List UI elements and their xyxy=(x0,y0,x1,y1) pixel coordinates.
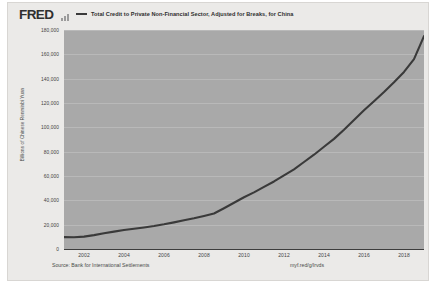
y-tick-label: 80,000 xyxy=(44,149,59,154)
x-tick-label: 2010 xyxy=(238,252,250,258)
x-tick-label: 2006 xyxy=(158,252,170,258)
chart-legend[interactable]: Total Credit to Private Non-Financial Se… xyxy=(76,11,293,17)
y-tick-label: 20,000 xyxy=(44,222,59,227)
chart-header: FRED Total Credit to Private Non-Financi… xyxy=(8,3,428,25)
chart-area: Billions of Chinese Renminbi Yuan 180,00… xyxy=(8,25,428,257)
x-axis-line xyxy=(64,249,424,250)
series-line-total-credit xyxy=(64,30,424,249)
y-tick-label: 60,000 xyxy=(44,174,59,179)
sparkline-icon xyxy=(61,14,71,21)
fred-chart-card: FRED Total Credit to Private Non-Financi… xyxy=(8,3,428,280)
y-tick-label: 120,000 xyxy=(41,101,59,106)
chart-footer: Source: Bank for International Settlemen… xyxy=(8,259,428,279)
y-tick-label: 100,000 xyxy=(41,125,59,130)
short-url: myf.red/g/lrvds xyxy=(290,262,324,268)
x-tick-label: 2012 xyxy=(278,252,290,258)
y-axis-ticks: 180,000160,000140,000120,000100,00080,00… xyxy=(8,25,62,254)
x-tick-label: 2004 xyxy=(118,252,130,258)
y-tick-label: 140,000 xyxy=(41,76,59,81)
legend-swatch-icon xyxy=(76,13,87,16)
source-note: Source: Bank for International Settlemen… xyxy=(52,262,149,268)
y-tick-label: 40,000 xyxy=(44,198,59,203)
x-tick-label: 2016 xyxy=(358,252,370,258)
x-tick-label: 2008 xyxy=(198,252,210,258)
x-tick-label: 2002 xyxy=(78,252,90,258)
y-tick-label: 0 xyxy=(56,247,59,252)
x-tick-label: 2014 xyxy=(318,252,330,258)
x-tick-label: 2018 xyxy=(398,252,410,258)
y-tick-label: 180,000 xyxy=(41,28,59,33)
y-tick-label: 160,000 xyxy=(41,52,59,57)
fred-logo: FRED xyxy=(19,8,53,21)
legend-series-label: Total Credit to Private Non-Financial Se… xyxy=(91,11,293,17)
